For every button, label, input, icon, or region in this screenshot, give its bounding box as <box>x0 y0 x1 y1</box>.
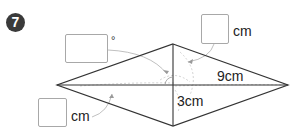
degree-unit: ° <box>111 35 115 46</box>
angle-answer-box[interactable] <box>65 34 108 63</box>
long-half-diagonal-label: 9cm <box>217 69 243 83</box>
half-diagonal-unit: cm <box>71 109 90 123</box>
short-half-diagonal-label: 3cm <box>177 94 203 108</box>
half-diagonal-answer-box[interactable] <box>38 98 67 127</box>
side-length-unit: cm <box>233 24 252 38</box>
problem-number-badge: 7 <box>6 13 25 32</box>
right-angle-arc <box>165 77 173 85</box>
diagram-stage: 7 ° cm cm 9cm 3cm <box>0 0 305 139</box>
side-length-answer-box[interactable] <box>201 14 229 44</box>
